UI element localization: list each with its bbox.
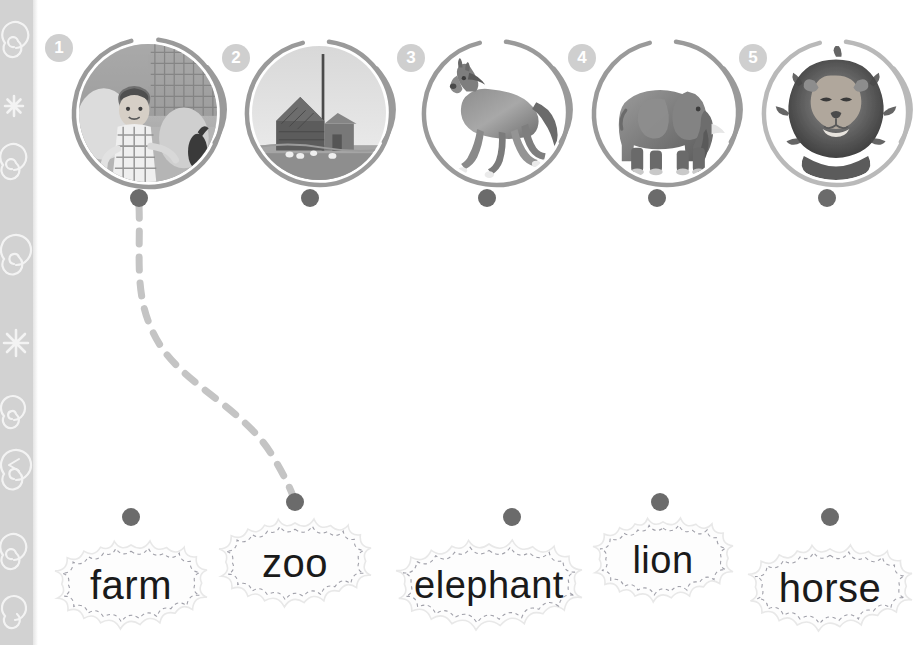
word-dot-farm[interactable] xyxy=(122,508,140,526)
picture-lion[interactable] xyxy=(748,25,915,201)
word-cloud-farm[interactable]: farm xyxy=(45,531,217,639)
picture-dot-2[interactable] xyxy=(301,189,319,207)
word-label: horse xyxy=(738,535,915,641)
word-dot-horse[interactable] xyxy=(821,508,839,526)
picture-dot-4[interactable] xyxy=(648,189,666,207)
word-cloud-zoo[interactable]: zoo xyxy=(209,509,381,617)
picture-dot-1[interactable] xyxy=(130,189,148,207)
picture-barn[interactable] xyxy=(231,25,407,201)
picture-elephant-image xyxy=(599,46,733,180)
step-number-badge-1: 1 xyxy=(45,34,73,62)
step-number-badge-4: 4 xyxy=(568,44,596,72)
picture-horse[interactable] xyxy=(408,25,584,201)
step-number-badge-5: 5 xyxy=(739,44,767,72)
sidebar-doodle-pattern xyxy=(0,0,33,645)
decorative-sidebar-strip xyxy=(0,0,33,645)
word-label: elephant xyxy=(386,530,592,640)
picture-elephant[interactable] xyxy=(578,25,754,201)
step-number-badge-2: 2 xyxy=(222,44,250,72)
word-cloud-elephant[interactable]: elephant xyxy=(386,530,592,640)
word-label: lion xyxy=(583,508,743,612)
word-label: zoo xyxy=(209,509,381,617)
word-cloud-horse[interactable]: horse xyxy=(738,535,915,641)
picture-horse-image xyxy=(429,46,563,180)
picture-lion-image xyxy=(769,46,903,180)
sidebar-edge-shadow xyxy=(33,0,38,645)
step-number-badge-3: 3 xyxy=(397,44,425,72)
picture-barn-image xyxy=(252,46,386,180)
picture-dot-5[interactable] xyxy=(818,189,836,207)
activity-canvas: farm zoo elephant lion horse 12345 xyxy=(0,0,915,645)
word-label: farm xyxy=(45,531,217,639)
word-cloud-lion[interactable]: lion xyxy=(583,508,743,612)
picture-dot-3[interactable] xyxy=(478,189,496,207)
picture-boy-on-farm-image xyxy=(79,44,217,182)
link-picture-1-to-zoo[interactable] xyxy=(139,205,293,496)
picture-boy-on-farm[interactable] xyxy=(58,23,238,203)
word-dot-elephant[interactable] xyxy=(503,508,521,526)
